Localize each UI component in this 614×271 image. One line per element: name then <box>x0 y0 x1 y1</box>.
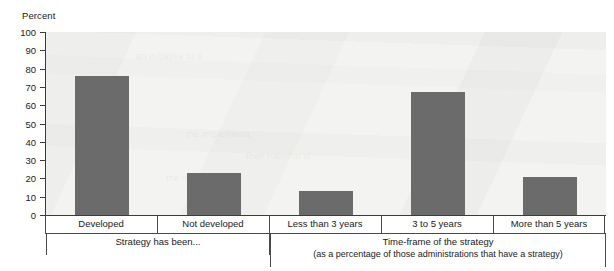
y-axis-line <box>45 32 46 216</box>
group-caption-sub: (as a percentage of those administration… <box>270 248 606 260</box>
y-tick-label: 100 <box>10 28 36 38</box>
category-label: 3 to 5 years <box>381 215 493 233</box>
category-band-edge <box>45 215 46 233</box>
category-separator <box>269 215 270 233</box>
bar <box>523 177 577 215</box>
category-separator <box>157 215 158 233</box>
group-caption: Time-frame of the strategy(as a percenta… <box>270 236 606 260</box>
y-tick-label: 70 <box>10 83 36 93</box>
category-label: Less than 3 years <box>269 215 381 233</box>
bar <box>411 92 465 215</box>
y-tick-mark <box>40 105 45 106</box>
plot-area: an initiative to a the implementa their … <box>46 32 606 215</box>
y-tick-mark <box>40 32 45 33</box>
y-tick-mark <box>40 69 45 70</box>
y-axis-title: Percent <box>22 10 55 21</box>
y-tick-mark <box>40 160 45 161</box>
group-rule <box>46 233 47 255</box>
bar-chart: Percent an initiative to a the implement… <box>0 0 614 271</box>
y-tick-label: 0 <box>10 211 36 221</box>
y-tick-label: 40 <box>10 138 36 148</box>
category-band-edge <box>604 215 605 233</box>
background-bleed-text: their national st <box>246 150 310 163</box>
y-tick-label: 30 <box>10 156 36 166</box>
category-separator <box>493 215 494 233</box>
y-tick-label: 20 <box>10 174 36 184</box>
y-tick-mark <box>40 124 45 125</box>
background-bleed-text: the implementa <box>186 128 250 141</box>
group-caption: Strategy has been... <box>46 236 270 248</box>
y-tick-mark <box>40 142 45 143</box>
y-tick-mark <box>40 50 45 51</box>
y-tick-mark <box>40 178 45 179</box>
category-label-band: DevelopedNot developedLess than 3 years3… <box>45 215 606 233</box>
bar <box>299 191 353 215</box>
y-tick-label: 10 <box>10 193 36 203</box>
category-separator <box>381 215 382 233</box>
y-tick-label: 90 <box>10 46 36 56</box>
bar <box>75 76 129 215</box>
category-band-bottom-rule <box>45 233 606 234</box>
category-label: Developed <box>45 215 157 233</box>
group-rule <box>270 233 271 267</box>
bar <box>187 173 241 215</box>
y-tick-label: 50 <box>10 120 36 130</box>
y-tick-mark <box>40 87 45 88</box>
y-tick-mark <box>40 197 45 198</box>
y-tick-label: 60 <box>10 101 36 111</box>
category-label: Not developed <box>157 215 269 233</box>
category-label: More than 5 years <box>493 215 605 233</box>
group-caption-main: Time-frame of the strategy <box>382 236 493 247</box>
y-tick-label: 80 <box>10 65 36 75</box>
group-rule <box>605 233 606 267</box>
group-caption-main: Strategy has been... <box>115 236 200 247</box>
background-bleed-text: an initiative to a <box>136 50 202 63</box>
